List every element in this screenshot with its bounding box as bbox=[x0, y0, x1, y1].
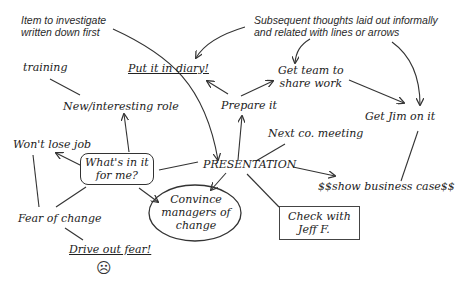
node-business-case: $$show business case$$ bbox=[318, 180, 455, 193]
annotation-arrow-jim bbox=[392, 42, 420, 105]
link-job-fear bbox=[33, 155, 39, 207]
mind-map-diagram: Item to investigate written down first S… bbox=[0, 0, 462, 291]
link-pres-business bbox=[293, 167, 335, 176]
link-pres-jeff bbox=[247, 174, 279, 207]
link-jim-business bbox=[401, 131, 418, 181]
annotation-line: Subsequent thoughts laid out informally bbox=[254, 14, 438, 26]
node-check-with-jeff: Check with Jeff F. bbox=[279, 206, 360, 240]
link-whats-convince bbox=[139, 188, 158, 202]
link-pres-prepare bbox=[238, 116, 242, 160]
annotation-arrow-diary bbox=[196, 27, 245, 58]
node-put-in-diary: Put it in diary! bbox=[128, 62, 209, 75]
node-line: for me? bbox=[85, 169, 149, 182]
node-line: Get team to bbox=[278, 64, 344, 77]
link-whats-pres bbox=[159, 162, 198, 170]
link-whats-fear bbox=[56, 187, 86, 207]
annotation-arrow-team bbox=[295, 39, 310, 63]
annotation-subsequent: Subsequent thoughts laid out informally … bbox=[254, 14, 438, 38]
sad-face-icon: ☹ bbox=[96, 259, 112, 277]
node-wont-lose-job: Won't lose job bbox=[13, 138, 91, 151]
node-prepare-it: Prepare it bbox=[221, 99, 277, 112]
node-convince-managers: Convince managers of change bbox=[161, 193, 231, 232]
node-line: Check with bbox=[288, 210, 351, 223]
link-prepare-diary bbox=[207, 81, 228, 94]
node-new-interesting-role: New/interesting role bbox=[63, 100, 179, 113]
node-training: training bbox=[23, 61, 67, 74]
node-presentation: PRESENTATION bbox=[203, 158, 296, 171]
node-whats-in-it-for-me: What's in it for me? bbox=[80, 153, 154, 185]
annotation-line: Item to investigate bbox=[21, 14, 106, 26]
node-get-team: Get team to share work bbox=[278, 64, 344, 90]
annotation-arrow-first bbox=[113, 29, 218, 160]
node-line: share work bbox=[278, 77, 344, 90]
link-training-role bbox=[50, 79, 80, 95]
node-line: change bbox=[161, 219, 231, 232]
node-get-jim: Get Jim on it bbox=[365, 110, 435, 123]
node-line: What's in it bbox=[85, 156, 149, 169]
node-line: Jeff F. bbox=[288, 223, 351, 236]
node-fear-of-change: Fear of change bbox=[18, 212, 101, 225]
annotation-line: written down first bbox=[21, 26, 106, 38]
node-drive-out-fear: Drive out fear! bbox=[69, 243, 151, 256]
link-fear-drive bbox=[65, 228, 83, 240]
node-line: Convince bbox=[161, 193, 231, 206]
node-next-co-meeting: Next co. meeting bbox=[268, 127, 363, 140]
link-team-jim bbox=[349, 80, 404, 103]
annotation-first-item: Item to investigate written down first bbox=[21, 14, 106, 38]
link-whats-newrole bbox=[124, 114, 129, 152]
annotation-line: and related with lines or arrows bbox=[254, 26, 438, 38]
link-prepare-team bbox=[241, 81, 273, 96]
node-line: managers of bbox=[161, 206, 231, 219]
